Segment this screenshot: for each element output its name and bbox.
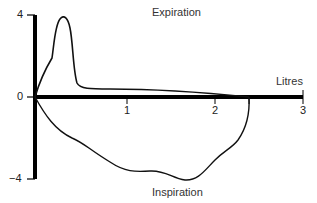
- expiration-curve: [35, 17, 249, 97]
- expiration-label: Expiration: [152, 6, 201, 18]
- x-tick-label-1: 1: [124, 104, 130, 116]
- x-axis-label: Litres: [276, 75, 303, 87]
- y-tick-label-0: 0: [17, 90, 23, 102]
- x-tick-label-2: 2: [212, 104, 218, 116]
- x-tick-label-3: 3: [300, 104, 306, 116]
- y-tick-label-neg4: −4: [9, 172, 22, 184]
- y-tick-label-4: 4: [17, 8, 23, 20]
- flow-volume-chart: [0, 0, 317, 203]
- inspiration-label: Inspiration: [152, 186, 203, 198]
